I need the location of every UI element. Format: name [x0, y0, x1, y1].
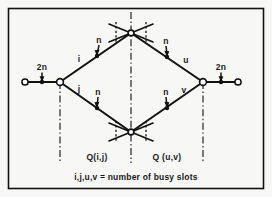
label-upper-left-capacity: n: [96, 35, 101, 45]
node-left-terminal: [22, 79, 28, 85]
figure-caption: i,j,u,v = number of busy slots: [74, 172, 197, 182]
label-upper-left-branch: i: [78, 54, 81, 64]
figure-background: [0, 0, 272, 197]
node-top-crossnode: [128, 30, 134, 36]
label-upper-right-capacity: n: [163, 36, 168, 46]
label-lower-right-capacity: n: [163, 87, 168, 97]
label-left-trunk-capacity: 2n: [37, 62, 47, 72]
label-region-right: Q (u,v): [152, 152, 181, 162]
node-left-junction: [57, 79, 64, 86]
label-upper-right-branch: u: [183, 55, 188, 65]
node-right-terminal: [235, 79, 241, 85]
figure-container: 2n 2n n n n n i j u v Q(i,j) Q (u,v) i,j…: [0, 0, 272, 197]
label-lower-right-branch: v: [182, 85, 187, 95]
label-lower-left-branch: j: [77, 84, 81, 94]
label-right-trunk-capacity: 2n: [216, 62, 226, 72]
label-region-left: Q(i,j): [86, 152, 107, 162]
network-diagram: 2n 2n n n n n i j u v Q(i,j) Q (u,v) i,j…: [0, 0, 272, 197]
node-bottom-crossnode: [128, 129, 134, 135]
node-right-junction: [200, 79, 207, 86]
label-lower-left-capacity: n: [95, 87, 100, 97]
